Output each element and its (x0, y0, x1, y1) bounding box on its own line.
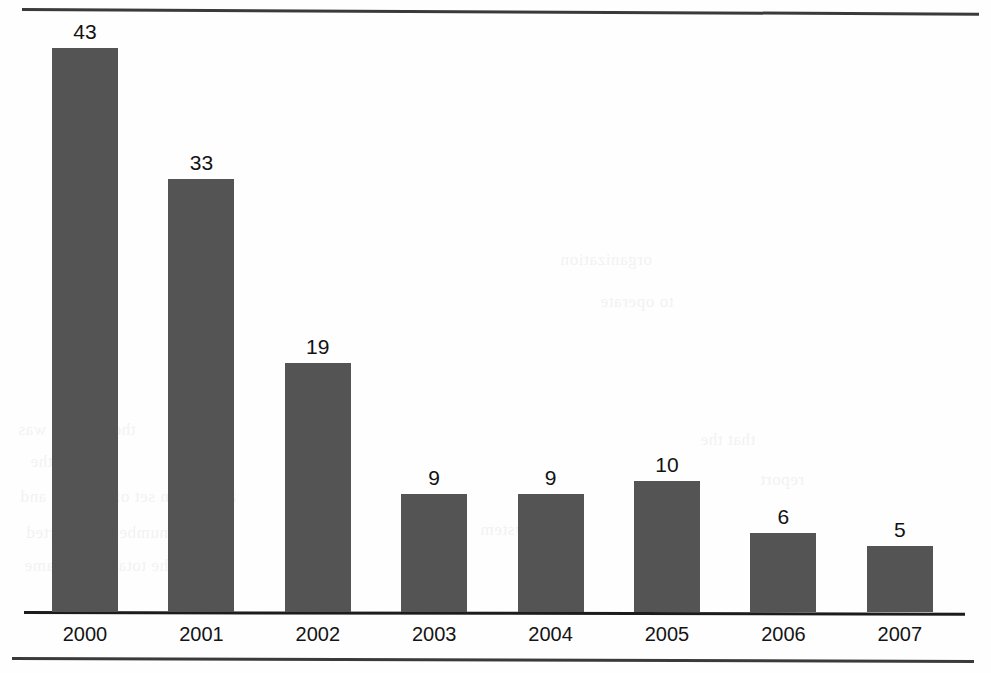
bar-value-label-2002: 19 (285, 336, 351, 357)
x-tick-label-2001: 2001 (168, 624, 234, 644)
bar-2006 (750, 533, 816, 612)
bar-2004 (518, 494, 584, 612)
bar-value-label-2005: 10 (634, 454, 700, 475)
bar-2003 (401, 494, 467, 612)
x-tick-label-2000: 2000 (52, 624, 118, 644)
x-tick-label-2003: 2003 (401, 624, 467, 644)
bar-value-label-2007: 5 (867, 519, 933, 540)
x-tick-label-2007: 2007 (867, 624, 933, 644)
x-tick-label-2002: 2002 (285, 624, 351, 644)
bar-value-label-2000: 43 (52, 21, 118, 42)
bar-value-label-2001: 33 (168, 152, 234, 173)
bar-chart-plot-area: 433319991065 200020012002200320042005200… (0, 0, 991, 673)
bar-value-label-2004: 9 (518, 467, 584, 488)
bar-value-label-2006: 6 (750, 506, 816, 527)
x-axis-baseline (24, 611, 965, 616)
x-tick-label-2004: 2004 (518, 624, 584, 644)
bar-2002 (285, 363, 351, 612)
chart-page: of thethe concept wasin in thea common s… (0, 0, 991, 673)
bar-2001 (168, 179, 234, 612)
bar-value-label-2003: 9 (401, 467, 467, 488)
bar-2000 (52, 48, 118, 612)
x-tick-label-2005: 2005 (634, 624, 700, 644)
bar-2005 (634, 481, 700, 612)
x-tick-label-2006: 2006 (750, 624, 816, 644)
bar-2007 (867, 546, 933, 612)
